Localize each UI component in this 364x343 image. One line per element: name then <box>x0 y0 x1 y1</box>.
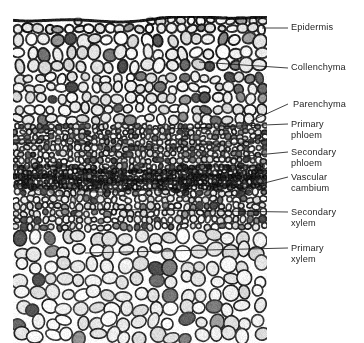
label-secondary-phloem: Secondary phloem <box>291 147 336 168</box>
label-parenchyma: Parenchyma <box>293 99 346 110</box>
label-collenchyma: Collenchyma <box>291 62 346 73</box>
label-primary-xylem: Primary xylem <box>291 243 324 264</box>
label-vascular-cambium: Vascular cambium <box>291 172 329 193</box>
label-secondary-xylem: Secondary xylem <box>291 207 336 228</box>
labeled-micrograph-figure: EpidermisCollenchymaParenchymaPrimary ph… <box>0 0 364 343</box>
label-primary-phloem: Primary phloem <box>291 119 324 140</box>
stem-cross-section-micrograph <box>13 16 267 343</box>
label-epidermis: Epidermis <box>291 22 333 33</box>
micrograph-canvas <box>13 16 267 343</box>
